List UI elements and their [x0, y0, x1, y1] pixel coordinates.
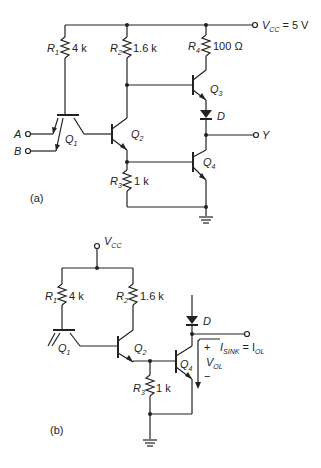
svg-text:B: B	[14, 145, 21, 157]
input-a-terminal	[26, 132, 31, 137]
transistor-q3: Q3	[193, 70, 223, 100]
svg-text:1 k: 1 k	[156, 382, 171, 394]
svg-text:Q2: Q2	[134, 342, 147, 356]
svg-text:Y: Y	[262, 129, 270, 141]
ground-icon-b	[143, 440, 157, 446]
transistor-q4-b: Q4	[176, 346, 193, 379]
svg-text:+: +	[204, 341, 210, 353]
svg-text:1.6 k: 1.6 k	[140, 290, 164, 302]
resistor-r3-b: R3 1 k	[133, 361, 171, 439]
resistor-r2-b: R2 1.6 k	[116, 268, 164, 330]
transistor-q4: Q4	[193, 150, 216, 180]
svg-text:R1: R1	[47, 42, 59, 56]
svg-text:D: D	[203, 315, 211, 327]
output-y-terminal	[254, 133, 259, 138]
transistor-q2-b: Q2	[118, 330, 147, 362]
svg-text:R3: R3	[110, 175, 122, 189]
transistor-q1: Q1	[52, 115, 84, 151]
svg-text:R2: R2	[116, 290, 128, 304]
ground-icon	[199, 217, 213, 223]
svg-text:A: A	[13, 128, 21, 140]
svg-text:Q3: Q3	[210, 83, 223, 97]
vol-label: VOL	[206, 356, 223, 370]
transistor-q1-b: Q1	[48, 330, 118, 356]
resistor-r1: R1 4 k	[47, 25, 87, 115]
svg-text:Q1: Q1	[65, 133, 78, 147]
resistor-r2: R2 1.6 k	[110, 25, 157, 115]
svg-text:R4: R4	[188, 40, 200, 54]
svg-text:−: −	[204, 370, 210, 382]
vcc-terminal-b	[95, 244, 100, 249]
transistor-q2: Q2	[112, 115, 144, 150]
output-terminal-b	[245, 332, 250, 337]
svg-text:D: D	[217, 110, 225, 122]
circuit-b: VCC R1 4 k R2 1.6 k Q1	[45, 235, 264, 446]
input-b-terminal	[26, 149, 31, 154]
svg-text:Q1: Q1	[58, 342, 71, 356]
svg-text:4 k: 4 k	[69, 290, 84, 302]
svg-text:4 k: 4 k	[72, 42, 87, 54]
diode-d: D	[200, 100, 225, 150]
svg-text:1 k: 1 k	[134, 175, 149, 187]
vcc-label: VCC= 5 V	[262, 19, 309, 33]
resistor-r3: R3 1 k	[110, 162, 149, 207]
circuit-a: VCC= 5 V R1 4 k R2 1.6 k R4 100 Ω	[13, 19, 309, 223]
ttl-nand-circuit-diagram: VCC= 5 V R1 4 k R2 1.6 k R4 100 Ω	[0, 0, 321, 468]
svg-text:R2: R2	[110, 42, 122, 56]
resistor-r4: R4 100 Ω	[188, 25, 243, 70]
svg-text:R3: R3	[133, 382, 145, 396]
svg-text:100 Ω: 100 Ω	[213, 40, 243, 52]
diode-d-b: D	[186, 295, 211, 346]
svg-text:VCC: VCC	[104, 235, 122, 249]
svg-text:R1: R1	[45, 290, 57, 304]
caption-a: (a)	[30, 192, 43, 204]
isink-label: ISINK= IOL	[220, 341, 264, 355]
svg-text:Q4: Q4	[203, 156, 216, 170]
svg-text:1.6 k: 1.6 k	[133, 42, 157, 54]
svg-text:Q4: Q4	[180, 358, 193, 372]
vcc-terminal	[253, 23, 258, 28]
resistor-r1-b: R1 4 k	[45, 268, 84, 330]
svg-text:Q2: Q2	[131, 128, 144, 142]
caption-b: (b)	[50, 424, 63, 436]
